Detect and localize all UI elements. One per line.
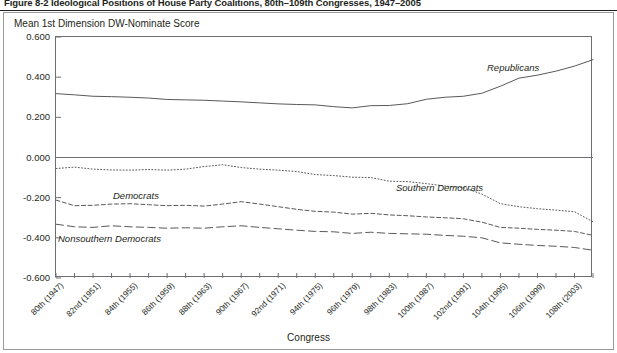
x-axis-tick-label: 86th (1959) [140,281,176,317]
y-axis-caption: Mean 1st Dimension DW-Nominate Score [14,18,199,29]
y-axis-tick-labels: 0.6000.4000.2000.000-0.200-0.400-0.600 [0,36,50,277]
y-axis-tick-label: 0.400 [26,71,50,82]
y-axis-tick-label: -0.400 [23,231,50,242]
x-axis-tick-label: 108th (2003) [545,281,584,320]
y-axis-tick-label: -0.600 [23,272,50,283]
x-axis-tick-label: 82nd (1951) [65,281,103,319]
series-label-southern-democrats: Southern Democrats [396,182,483,193]
x-axis-tick-label: 96th (1979) [326,281,362,317]
series-label-democrats: Democrats [113,190,159,201]
y-axis-tick-label: 0.600 [26,31,50,42]
x-axis-tick-label: 88th (1963) [178,281,214,317]
y-axis-tick-label: 0.000 [26,151,50,162]
figure-root: Figure 8-2 Ideological Positions of Hous… [0,0,617,353]
x-axis-tick-label: 98th (1983) [363,281,399,317]
x-axis-tick-label: 102nd (1991) [432,281,473,322]
series-label-republicans: Republicans [487,62,539,73]
series-label-nonsouthern-democrats: Nonsouthern Democrats [58,233,161,244]
title-divider [0,10,617,11]
x-axis-tick-label: 94th (1975) [289,281,325,317]
x-axis-tick-label: 106th (1999) [508,281,547,320]
x-axis-tick-label: 90th (1967) [215,281,251,317]
x-axis-tick-label: 100th (1987) [397,281,436,320]
y-axis-tick-label: 0.200 [26,111,50,122]
x-axis-tick-label: 92nd (1971) [250,281,288,319]
x-axis-tick-label: 84th (1955) [103,281,139,317]
y-axis-tick-label: -0.200 [23,191,50,202]
x-axis-tick-label: 104th (1995) [471,281,510,320]
figure-title: Figure 8-2 Ideological Positions of Hous… [4,0,421,8]
x-axis-caption: Congress [0,332,617,343]
